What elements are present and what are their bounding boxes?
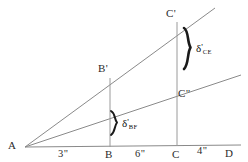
dimension-label-bc: 6" [135, 149, 146, 160]
dimension-label-ab: 3" [58, 149, 69, 160]
baseline-ad [25, 145, 241, 147]
brace-ce-icon [184, 28, 191, 69]
point-label-c-double-prime: C" [178, 88, 191, 99]
point-label-a: A [8, 140, 16, 151]
dimension-label-cd: 4" [197, 146, 208, 157]
deflection-label-ce: δ'CE [196, 43, 212, 54]
deflection-label-bf: δ'BF [122, 118, 137, 129]
point-label-c-prime: C' [166, 8, 176, 19]
point-label-b-prime: B' [98, 63, 108, 74]
diagram-canvas [0, 0, 248, 162]
delta-subscript-ce: CE [203, 48, 212, 55]
brace-bf-icon [111, 111, 117, 135]
delta-subscript-bf: BF [129, 123, 138, 130]
point-label-c: C [172, 149, 180, 160]
point-label-b: B [105, 149, 113, 160]
geometry-diagram: A B C D B' C' C" 3" 6" 4" δ'CE δ'BF [0, 0, 248, 162]
point-label-d: D [225, 148, 233, 159]
lower-ray-ac-double-prime [25, 75, 241, 147]
